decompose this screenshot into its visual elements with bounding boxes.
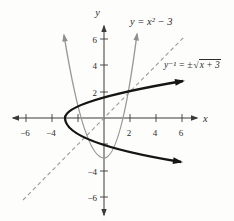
y-tick-label-4: 4 [93, 61, 98, 71]
parabola-curve [64, 34, 137, 158]
y-tick-label-6: 6 [93, 35, 98, 45]
inverse-radicand: x + 3 [199, 59, 221, 70]
inverse-upper-arrow-icon [175, 77, 186, 85]
parabola-equation-label: y = x² − 3 [130, 17, 172, 28]
y-axis-label: y [94, 7, 100, 18]
radical-sign: √ [193, 60, 198, 70]
x-axis-label: x [202, 113, 208, 124]
y-axis-top-arrow-icon [101, 25, 106, 33]
y-tick-label-2: 2 [93, 88, 98, 98]
parabola-equation-text: y = x² − 3 [130, 16, 172, 27]
x-tick-label-neg6: −6 [20, 128, 30, 138]
parabola-right-arrow-icon [133, 32, 140, 41]
y-tick-label-neg6: −6 [87, 193, 97, 203]
inverse-function-graph: −6 −4 2 4 6 6 4 2 −4 −6 x y y = x² − 3 y… [0, 0, 234, 221]
plot-canvas: −6 −4 2 4 6 6 4 2 −4 −6 x y [0, 0, 234, 221]
x-axis-right-arrow-icon [191, 115, 199, 120]
inverse-equation-label: y⁻¹ = ±√x + 3 [164, 61, 221, 71]
inverse-equation-prefix: y⁻¹ = ± [164, 60, 192, 70]
parabola-left-arrow-icon [61, 33, 68, 42]
x-tick-label-4: 4 [153, 128, 158, 138]
x-tick-label-neg4: −4 [46, 128, 56, 138]
y-tick-label-neg4: −4 [87, 167, 97, 177]
x-axis-left-arrow-icon [12, 115, 20, 120]
y-axis-bottom-arrow-icon [101, 209, 106, 217]
inverse-lower-arrow-icon [173, 157, 184, 165]
x-tick-label-6: 6 [179, 128, 184, 138]
x-tick-label-2: 2 [127, 128, 132, 138]
